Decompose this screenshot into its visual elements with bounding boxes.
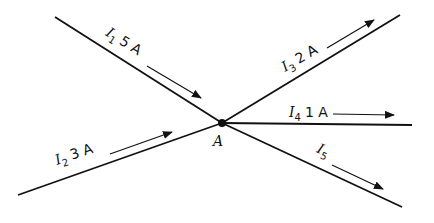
- wire-i2: [18, 123, 222, 195]
- svg-text:I15 A: I15 A: [101, 23, 145, 60]
- wire-i1: [55, 17, 222, 123]
- junction-node: [218, 119, 226, 127]
- wire-i5: [222, 123, 402, 207]
- node-label: A: [211, 133, 223, 149]
- svg-text:I23 A: I23 A: [52, 140, 96, 171]
- diagram-svg: A I15 A I23 A I32 A I41 A I5: [0, 0, 434, 223]
- svg-text:I32 A: I32 A: [278, 41, 322, 78]
- label-i2: I23 A: [52, 140, 96, 171]
- wire-i4: [222, 123, 412, 125]
- circuit-junction-diagram: A I15 A I23 A I32 A I41 A I5: [0, 0, 434, 223]
- label-i5: I5: [313, 140, 333, 163]
- arrow-i4: [333, 114, 394, 115]
- label-i4: I41 A: [288, 104, 328, 123]
- label-i3: I32 A: [278, 41, 322, 78]
- svg-text:I5: I5: [313, 140, 333, 163]
- arrow-i3: [327, 20, 374, 48]
- svg-text:I41 A: I41 A: [288, 104, 328, 123]
- label-i1: I15 A: [101, 23, 145, 60]
